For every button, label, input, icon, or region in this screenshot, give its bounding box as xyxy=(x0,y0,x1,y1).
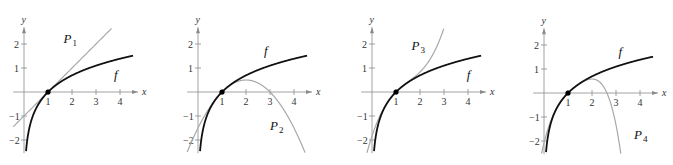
x-tick-label: 1 xyxy=(220,96,225,107)
series-label-f: f xyxy=(114,67,120,82)
y-tick-label: 2 xyxy=(188,39,193,50)
x-axis-label: x xyxy=(661,87,667,98)
y-tick-label: 2 xyxy=(362,39,367,50)
chart-panel-1: xy1234−2−112P1f xyxy=(9,14,147,153)
expansion-point xyxy=(45,89,50,94)
x-tick-label: 1 xyxy=(46,96,51,107)
x-arrow-icon xyxy=(132,90,138,94)
y-arrow-icon xyxy=(542,28,546,34)
y-axis-label: y xyxy=(541,15,547,26)
x-tick-label: 3 xyxy=(442,96,447,107)
series-label-f: f xyxy=(467,67,473,82)
series-label-p2: P2 xyxy=(269,118,283,135)
y-axis-label: y xyxy=(369,14,375,25)
x-tick-label: 4 xyxy=(118,96,123,107)
expansion-point xyxy=(393,89,398,94)
y-tick-label: −1 xyxy=(357,111,368,122)
taylor-approximation-figure: xy1234−2−112P1fxy1234−2−112P2fxy1234−2−1… xyxy=(0,0,673,165)
series-label-p1: P1 xyxy=(63,31,77,48)
x-tick-label: 1 xyxy=(566,97,571,108)
y-tick-label: 2 xyxy=(14,39,19,50)
y-tick-label: −1 xyxy=(529,112,540,123)
y-tick-label: −1 xyxy=(9,111,20,122)
y-arrow-icon xyxy=(370,27,374,33)
chart-panel-2: xy1234−2−112P2f xyxy=(183,14,321,153)
x-tick-label: 3 xyxy=(94,96,99,107)
series-p3-curve xyxy=(367,29,444,153)
x-tick-label: 4 xyxy=(292,96,297,107)
x-tick-label: 3 xyxy=(614,97,619,108)
expansion-point xyxy=(219,89,224,94)
x-tick-label: 2 xyxy=(244,96,249,107)
series-label-p4: P4 xyxy=(633,127,648,144)
series-label-f: f xyxy=(618,44,624,59)
x-tick-label: 2 xyxy=(418,96,423,107)
y-axis-label: y xyxy=(195,14,201,25)
series-p1-curve xyxy=(13,28,111,126)
x-axis-label: x xyxy=(489,86,495,97)
y-tick-label: 2 xyxy=(534,40,539,51)
y-tick-label: −2 xyxy=(9,135,20,146)
x-tick-label: 2 xyxy=(70,96,75,107)
y-tick-label: −2 xyxy=(529,136,540,147)
chart-panel-4: xy1234−2−112P4f xyxy=(529,15,667,154)
x-tick-label: 4 xyxy=(638,97,643,108)
x-arrow-icon xyxy=(480,90,486,94)
y-axis-label: y xyxy=(21,14,27,25)
x-arrow-icon xyxy=(652,91,658,95)
x-tick-label: 2 xyxy=(590,97,595,108)
x-tick-label: 1 xyxy=(394,96,399,107)
x-tick-label: 3 xyxy=(268,96,273,107)
series-label-p3: P3 xyxy=(411,38,426,55)
y-tick-label: 1 xyxy=(188,63,193,74)
y-arrow-icon xyxy=(196,27,200,33)
expansion-point xyxy=(565,90,570,95)
x-arrow-icon xyxy=(306,90,312,94)
x-axis-label: x xyxy=(315,86,321,97)
chart-panel-3: xy1234−2−112P3f xyxy=(357,14,495,153)
x-tick-label: 4 xyxy=(466,96,471,107)
y-tick-label: 1 xyxy=(534,64,539,75)
y-tick-label: 1 xyxy=(362,63,367,74)
y-tick-label: −1 xyxy=(183,111,194,122)
y-arrow-icon xyxy=(22,27,26,33)
series-label-f: f xyxy=(264,43,270,58)
y-tick-label: 1 xyxy=(14,63,19,74)
y-tick-label: −2 xyxy=(357,135,368,146)
x-axis-label: x xyxy=(141,86,147,97)
